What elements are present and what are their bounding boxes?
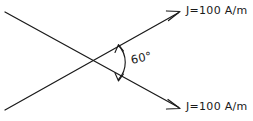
figure-canvas: J=100 A/m J=100 A/m 60° — [0, 0, 253, 121]
top-current-label: J=100 A/m — [186, 5, 248, 16]
bottom-current-label: J=100 A/m — [186, 101, 248, 112]
